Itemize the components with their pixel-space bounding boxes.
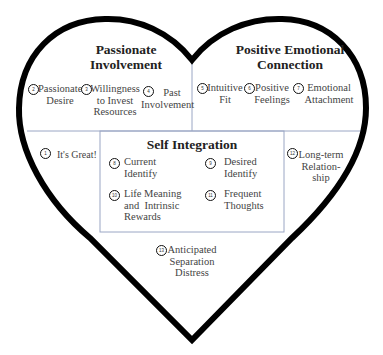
item-text: Rewards — [124, 211, 181, 223]
number-badge-8: 8 — [109, 158, 120, 169]
item-text: Current — [124, 156, 157, 168]
item-text: Emotional — [304, 82, 354, 94]
item-text: Positive — [253, 82, 291, 94]
item-text: Willingness — [90, 83, 140, 95]
heading-line: Positive Emotional — [220, 42, 360, 57]
item-positive-feelings: Positive Feelings — [253, 82, 291, 105]
item-text: Long-term — [296, 149, 346, 161]
item-text: Past — [141, 87, 193, 99]
item-text: Separation — [166, 256, 218, 268]
item-text: Desire — [38, 95, 82, 107]
item-frequent-thoughts: Frequent Thoughts — [224, 188, 264, 211]
heading-positive-emotional-connection: Positive Emotional Connection — [220, 42, 360, 72]
item-its-great: It's Great! — [57, 149, 97, 161]
item-long-term-relationship: Long-term Relation- ship — [296, 149, 346, 184]
heading-passionate-involvement: Passionate Involvement — [66, 42, 186, 72]
item-text: Desired — [224, 156, 257, 168]
item-text: Anticipated — [166, 244, 218, 256]
item-text: Life Meaning — [124, 188, 181, 200]
number-badge-11: 11 — [205, 190, 216, 201]
item-emotional-attachment: Emotional Attachment — [304, 82, 354, 105]
item-text: Identify — [124, 168, 157, 180]
number-badge-9: 9 — [205, 158, 216, 169]
number-badge-7: 7 — [293, 83, 304, 94]
heading-line: Passionate — [66, 42, 186, 57]
item-text: Fit — [207, 94, 243, 106]
item-willingness-to-invest: Willingness to Invest Resources — [90, 83, 140, 118]
item-life-meaning: Life Meaning and Intrinsic Rewards — [124, 188, 181, 223]
item-text: Identify — [224, 168, 257, 180]
item-passionate-desire: Passionate Desire — [38, 83, 82, 106]
item-current-identify: Current Identify — [124, 156, 157, 179]
item-text: Frequent — [224, 188, 264, 200]
item-text: Intuitive — [207, 82, 243, 94]
item-text: and Intrinsic — [124, 200, 181, 212]
heading-line: Involvement — [66, 57, 186, 72]
number-badge-10: 10 — [109, 190, 120, 201]
item-text: to Invest — [90, 95, 140, 107]
heading-line: Connection — [220, 57, 360, 72]
item-text: Passionate — [38, 83, 82, 95]
item-text: Feelings — [253, 94, 291, 106]
item-past-involvement: Past Involvement — [141, 87, 193, 110]
item-text: Involvement — [141, 99, 193, 111]
number-badge-1: 1 — [40, 148, 51, 159]
item-anticipated-separation-distress: Anticipated Separation Distress — [166, 244, 218, 279]
heading-self-integration: Self Integration — [100, 137, 284, 152]
item-desired-identify: Desired Identify — [224, 156, 257, 179]
item-intuitive-fit: Intuitive Fit — [207, 82, 243, 105]
item-text: ship — [296, 172, 346, 184]
item-text: Distress — [166, 267, 218, 279]
item-text: Resources — [90, 106, 140, 118]
item-text: Relation- — [296, 161, 346, 173]
item-text: Attachment — [304, 94, 354, 106]
item-text: Thoughts — [224, 200, 264, 212]
